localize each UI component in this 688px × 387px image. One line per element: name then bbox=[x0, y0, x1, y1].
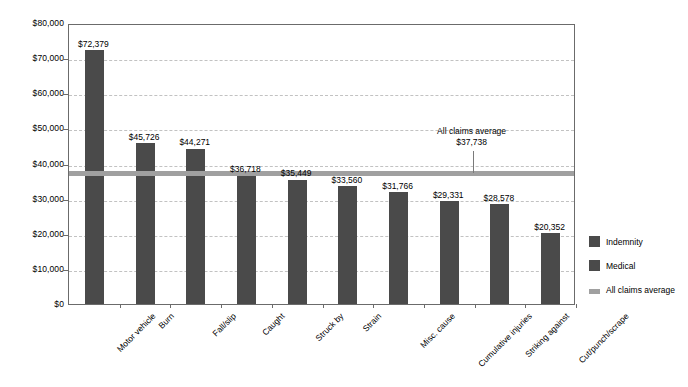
bar bbox=[541, 233, 560, 304]
x-axis-tick-mark bbox=[424, 304, 425, 308]
average-annotation-line1: All claims average bbox=[422, 126, 522, 137]
chart-legend: Indemnity Medical All claims average bbox=[589, 236, 688, 308]
x-axis-category-label: Cumulative injuries bbox=[476, 311, 534, 369]
x-axis-category-label: Caught bbox=[260, 311, 286, 337]
x-axis-category-label: Strain bbox=[360, 311, 383, 334]
y-axis-tick-label: $80,000 bbox=[2, 19, 64, 28]
bar-value-label: $44,271 bbox=[160, 137, 230, 147]
legend-label-all-claims-average: All claims average bbox=[606, 285, 675, 295]
x-axis-category-label: Burn bbox=[156, 311, 176, 331]
bar-chart: $0$10,000$20,000$30,000$40,000$50,000$60… bbox=[0, 0, 688, 387]
x-axis-category-label: Struck by bbox=[314, 311, 346, 343]
legend-swatch-medical bbox=[589, 260, 600, 271]
legend-label-indemnity: Indemnity bbox=[606, 237, 643, 247]
bar bbox=[136, 143, 155, 304]
plot-area bbox=[68, 24, 575, 305]
bar bbox=[338, 186, 357, 304]
y-axis-tick-label: $60,000 bbox=[2, 89, 64, 98]
y-axis-tick-label: $10,000 bbox=[2, 265, 64, 274]
gridline bbox=[69, 95, 574, 96]
bar-value-label: $20,352 bbox=[515, 222, 585, 232]
y-axis-tick-label: $50,000 bbox=[2, 124, 64, 133]
y-axis-tick-label: $20,000 bbox=[2, 230, 64, 239]
bar bbox=[389, 192, 408, 304]
y-axis-tick-label: $40,000 bbox=[2, 160, 64, 169]
x-axis-tick-mark bbox=[475, 304, 476, 308]
bar bbox=[440, 201, 459, 304]
x-axis-category-label: Fall/slip bbox=[210, 311, 237, 338]
x-axis-tick-mark bbox=[221, 304, 222, 308]
legend-item-all-claims-average: All claims average bbox=[589, 284, 688, 295]
x-axis-tick-mark bbox=[170, 304, 171, 308]
x-axis-tick-mark bbox=[120, 304, 121, 308]
bar bbox=[237, 175, 256, 304]
gridline bbox=[69, 60, 574, 61]
legend-item-indemnity: Indemnity bbox=[589, 236, 688, 247]
bar bbox=[85, 50, 104, 304]
y-axis-tick-label: $30,000 bbox=[2, 195, 64, 204]
y-axis: $0$10,000$20,000$30,000$40,000$50,000$60… bbox=[0, 24, 64, 305]
chart-title-remnant bbox=[236, 0, 416, 5]
average-annotation: All claims average $37,738 bbox=[422, 126, 522, 147]
legend-item-medical: Medical bbox=[589, 260, 688, 271]
x-axis-tick-mark bbox=[373, 304, 374, 308]
x-axis-category-label: Cut/punch/scrape bbox=[576, 311, 630, 365]
average-annotation-line2: $37,738 bbox=[422, 137, 522, 148]
x-axis-category-label: Misc. cause bbox=[418, 311, 457, 350]
x-axis-category-label: Motor vehicle bbox=[115, 311, 158, 354]
y-axis-tick-label: $70,000 bbox=[2, 54, 64, 63]
y-axis-tick-label: $0 bbox=[2, 300, 64, 309]
x-axis-tick-mark bbox=[323, 304, 324, 308]
bar bbox=[288, 180, 307, 305]
legend-label-medical: Medical bbox=[606, 261, 635, 271]
x-axis-tick-mark bbox=[525, 304, 526, 308]
bar bbox=[490, 204, 509, 304]
legend-swatch-indemnity bbox=[589, 236, 600, 247]
bar-value-label: $28,578 bbox=[464, 193, 534, 203]
bar-value-label: $72,379 bbox=[58, 39, 128, 49]
legend-swatch-all-claims-average bbox=[589, 289, 600, 294]
annotation-leader-line bbox=[473, 151, 474, 173]
x-axis-tick-mark bbox=[272, 304, 273, 308]
x-axis-tick-mark bbox=[576, 304, 577, 308]
